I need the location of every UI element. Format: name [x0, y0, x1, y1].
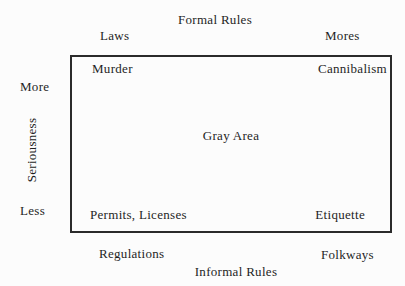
informal-rules-title: Informal Rules [176, 265, 296, 279]
etiquette-label: Etiquette [315, 208, 365, 222]
mores-label: Mores [325, 29, 360, 43]
permits-licenses-label: Permits, Licenses [90, 208, 187, 222]
seriousness-axis-label: Seriousness [25, 118, 39, 183]
cannibalism-label: Cannibalism [318, 62, 387, 76]
gray-area-label: Gray Area [70, 129, 392, 143]
less-label: Less [20, 204, 45, 218]
norms-seriousness-diagram: Formal Rules Laws Mores More Seriousness… [0, 0, 405, 286]
folkways-label: Folkways [321, 248, 374, 262]
regulations-label: Regulations [99, 247, 164, 261]
murder-label: Murder [92, 62, 133, 76]
formal-rules-title: Formal Rules [155, 13, 275, 27]
more-label: More [20, 80, 49, 94]
laws-label: Laws [100, 29, 129, 43]
